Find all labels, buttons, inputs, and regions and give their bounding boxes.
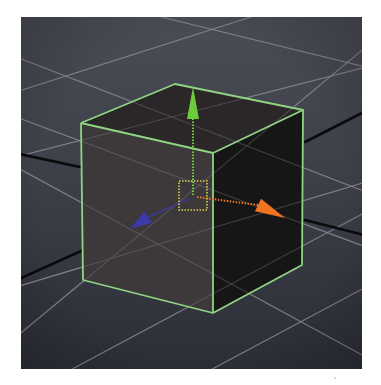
scene-canvas[interactable] <box>21 17 362 369</box>
3d-viewport[interactable] <box>21 17 362 369</box>
viewport-vignette <box>21 17 362 369</box>
stray-mark <box>334 377 336 379</box>
